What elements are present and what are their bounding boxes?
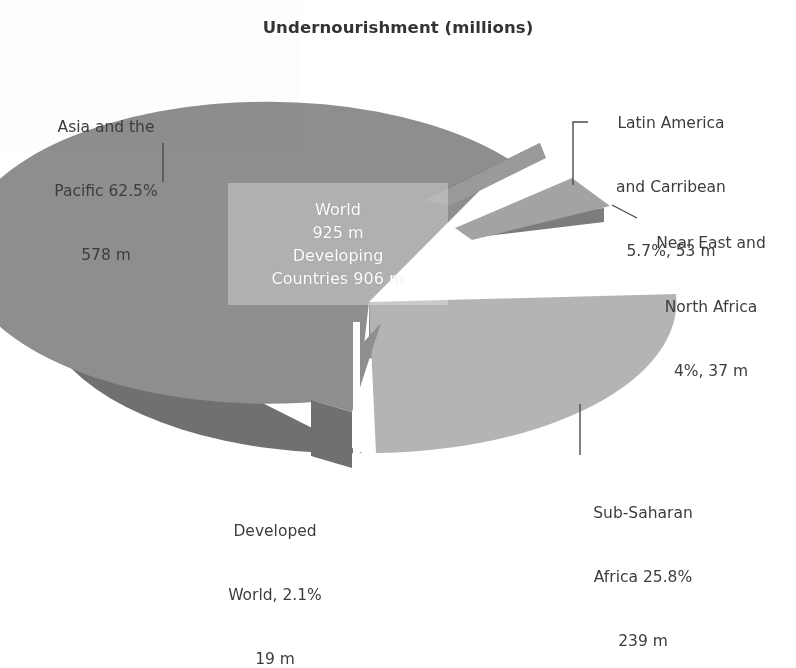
slice-label-line1: Asia and the — [26, 117, 186, 138]
slice-top-sub-saharan-africa — [369, 294, 676, 453]
slice-label-line3: 578 m — [26, 245, 186, 266]
center-callout-line1: World — [315, 198, 361, 221]
explode-gap-developed-left — [353, 322, 360, 470]
center-callout-line2: 925 m — [312, 221, 363, 244]
slice-label-line1: Near East and — [632, 233, 790, 254]
slice-label-line2: World, 2.1% — [186, 585, 364, 606]
slice-label-developed-world: Developed World, 2.1% 19 m — [186, 478, 364, 668]
slice-label-line3: 4%, 37 m — [632, 361, 790, 382]
slice-label-asia-and-the-pacific: Asia and the Pacific 62.5% 578 m — [26, 74, 186, 309]
slice-label-line3: 19 m — [186, 649, 364, 668]
slice-label-line1: Sub-Saharan — [558, 503, 728, 524]
slice-label-sub-saharan-africa: Sub-Saharan Africa 25.8% 239 m — [558, 460, 728, 668]
slice-label-line1: Latin America — [578, 113, 764, 134]
slice-label-line3: 239 m — [558, 631, 728, 652]
center-callout-box: World 925 m Developing Countries 906 m — [228, 183, 448, 305]
center-callout-line4: Countries 906 m — [271, 267, 404, 290]
slice-label-line1: Developed — [186, 521, 364, 542]
slice-label-line2: Pacific 62.5% — [26, 181, 186, 202]
center-callout-line3: Developing — [293, 244, 384, 267]
slice-label-near-east-and-north-africa: Near East and North Africa 4%, 37 m — [632, 190, 790, 425]
slice-label-line2: Africa 25.8% — [558, 567, 728, 588]
slice-label-line2: North Africa — [632, 297, 790, 318]
